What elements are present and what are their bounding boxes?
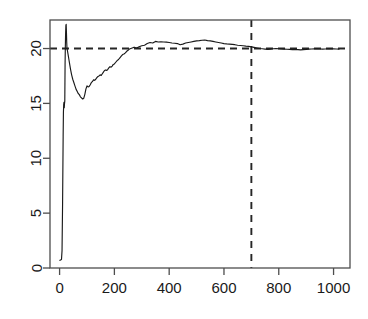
y-tick-label: 10 bbox=[28, 150, 45, 167]
x-tick-label: 0 bbox=[55, 279, 63, 296]
plot-canvas: 02004006008001000 05101520 bbox=[0, 0, 368, 319]
x-tick-label: 800 bbox=[266, 279, 291, 296]
y-tick-label: 0 bbox=[28, 264, 45, 272]
y-tick-label: 5 bbox=[28, 209, 45, 217]
x-tick-label: 200 bbox=[102, 279, 127, 296]
x-tick-label: 600 bbox=[211, 279, 236, 296]
x-tick-label: 1000 bbox=[317, 279, 350, 296]
y-tick-label: 20 bbox=[28, 40, 45, 57]
chart-figure: 02004006008001000 05101520 bbox=[0, 0, 368, 319]
y-tick-label: 15 bbox=[28, 95, 45, 112]
x-tick-label: 400 bbox=[157, 279, 182, 296]
